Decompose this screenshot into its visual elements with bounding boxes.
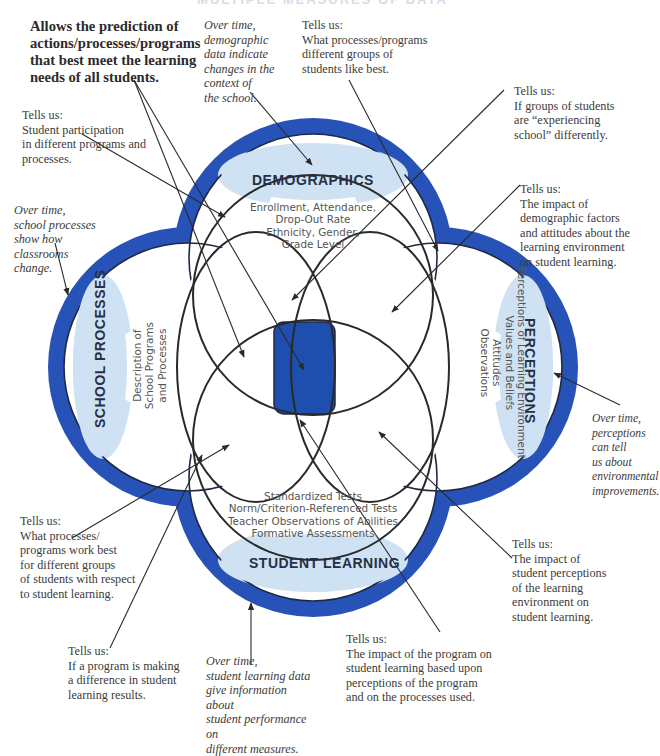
processes-over-time-note: Over time, school processes show how cla… — [14, 203, 124, 276]
perc-proc-learning-note: Tells us: The impact of the program on s… — [346, 632, 526, 705]
student-learning-description: Standardized Tests Norm/Criterion-Refere… — [200, 490, 426, 540]
demo-perceptions-note: Tells us: What processes/programs differ… — [302, 18, 452, 76]
school-processes-label: SCHOOL PROCESSES — [92, 308, 108, 428]
center-intersection — [274, 322, 335, 414]
perceptions-description: Perceptions of Learning Environment Valu… — [478, 260, 528, 466]
demographics-description: Enrollment, Attendance, Drop-Out Rate Et… — [218, 201, 408, 251]
demo-processes-note: Tells us: Student participation in diffe… — [22, 108, 172, 166]
processes-learning-note: Tells us: If a program is making a diffe… — [68, 644, 208, 702]
demographics-over-time-note: Over time, demographic data indicate cha… — [204, 18, 294, 106]
school-processes-description: Description of School Programs and Proce… — [131, 311, 168, 421]
learning-over-time-note: Over time, student learning data give in… — [206, 654, 316, 756]
demo-perc-impact-note: Tells us: The impact of demographic fact… — [520, 182, 645, 270]
processes-learning-groups-note: Tells us: What processes/ programs work … — [20, 514, 160, 602]
demo-perc-proc-note: Tells us: If groups of students are “exp… — [514, 84, 644, 142]
demographics-label: DEMOGRAPHICS — [252, 172, 374, 188]
perceptions-learning-note: Tells us: The impact of student percepti… — [512, 537, 642, 625]
perceptions-over-time-note: Over time, perceptions can tell us about… — [592, 412, 652, 500]
student-learning-label: STUDENT LEARNING — [249, 555, 400, 571]
